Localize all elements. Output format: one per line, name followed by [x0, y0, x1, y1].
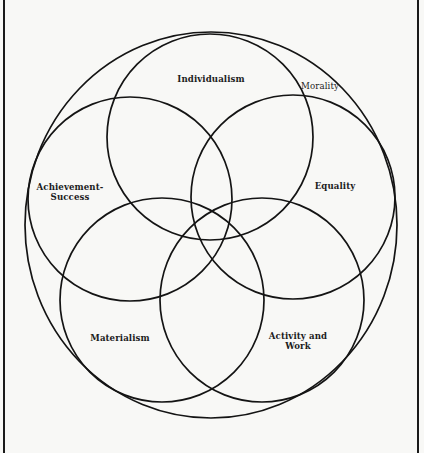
label-materialism-text: Materialism	[90, 333, 149, 343]
label-achievement-line2: Success	[37, 192, 104, 202]
label-morality: Morality	[301, 81, 339, 91]
label-materialism: Materialism	[90, 333, 149, 343]
label-activity-line1: Activity and	[269, 331, 327, 341]
label-individualism-text: Individualism	[177, 74, 244, 84]
label-activity-line2: Work	[269, 341, 327, 351]
label-activity-and-work: Activity and Work	[269, 331, 327, 351]
label-equality-text: Equality	[315, 181, 356, 191]
outer-circle-morality	[25, 32, 397, 418]
label-individualism: Individualism	[177, 74, 244, 84]
venn-diagram	[0, 0, 424, 453]
label-achievement-success: Achievement- Success	[37, 182, 104, 202]
label-equality: Equality	[315, 181, 356, 191]
label-achievement-line1: Achievement-	[37, 182, 104, 192]
label-morality-text: Morality	[301, 81, 339, 91]
